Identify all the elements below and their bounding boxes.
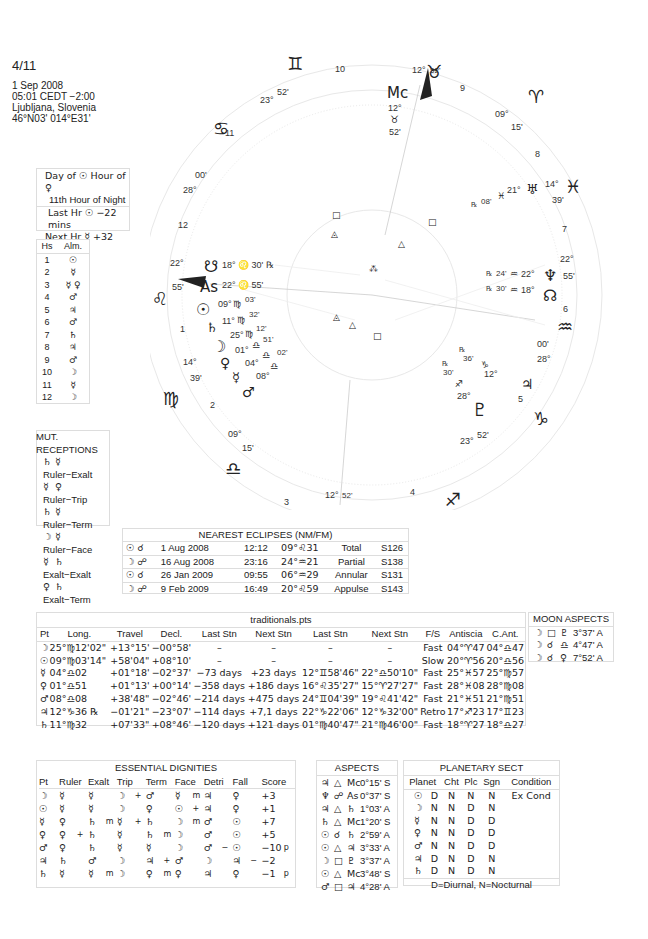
cell: +5 (261, 828, 283, 841)
cell: D (462, 802, 480, 815)
cell: N (441, 789, 461, 802)
eclipse-type-icons: ☽ ☍ (123, 555, 158, 569)
jupiter-glyph-icon: ♃ (521, 376, 534, 392)
almuten-row: 3☿ ♀ (37, 279, 89, 292)
uranus-glyph-icon: ♅ (526, 181, 539, 197)
col-header-house: Hs (37, 240, 57, 253)
cell (284, 802, 295, 815)
cell: +121 days (246, 719, 300, 732)
cell: −02°37' (151, 667, 193, 680)
aspect-row: ♆☍As0°37' S (317, 789, 397, 802)
c7-min: 55' (563, 271, 575, 281)
col-header: Fall (233, 775, 262, 789)
house-3-number: 3 (284, 497, 289, 507)
traditionals-title: traditionals.pts (37, 613, 525, 628)
jupiter-retro: ℞ (459, 346, 465, 353)
almuten-table: Hs Alm. 1☉2☿3☿ ♀4♂5♃6♂7♄8♃9♂10☽11☿12☽ (36, 239, 90, 404)
almuten-row: 6♂ (37, 316, 89, 329)
aspect-orb: 4°47' A (573, 639, 603, 650)
eclipse-date: 26 Jan 2009 (158, 569, 239, 583)
saturn-glyph-icon: ♄ (206, 320, 218, 335)
chart-coords: 46°N03' 014°E31' (12, 113, 96, 124)
aspect-square-marker-icon: □ (428, 217, 437, 227)
aspect-orb: 1°03' A (360, 803, 390, 814)
cell: D (462, 827, 480, 840)
almuten-row: 7♄ (37, 329, 89, 342)
aspect-glyph: △ (334, 841, 347, 854)
aspect-orb: 0°37' S (360, 790, 390, 801)
north-node-retro: ℞ (486, 285, 492, 292)
sect-row: ♃DNDN (404, 853, 559, 866)
uranus-min: 08' (481, 197, 492, 206)
aquarius-glyph-icon: ♒ (557, 316, 573, 337)
cell (503, 865, 559, 878)
reception-row: ☿♄Exalt−Exalt (37, 556, 109, 581)
virgo-glyph-icon: ♍ (163, 388, 179, 409)
dignity-row: ☉☿☿☽♀☉+♃♀+1 (39, 802, 295, 815)
aspect-square-marker-icon: □ (373, 331, 382, 341)
c8-deg: 14° (545, 179, 559, 189)
col-header: Pt (37, 628, 50, 641)
south-node-pos: 18° ♌ 30' ℞ (222, 259, 274, 270)
eclipse-type-icons: ☉ ☌ (123, 542, 158, 555)
c2-min: 39' (190, 373, 202, 383)
house-number: 1 (37, 253, 57, 266)
planet-b: ♄ (55, 556, 67, 569)
cell (77, 841, 88, 854)
cell: ♀ (39, 828, 59, 841)
house-number: 2 (37, 266, 57, 279)
cell: ♄ (37, 719, 50, 732)
col-header-almuten: Alm. (57, 240, 89, 253)
cell (250, 867, 261, 880)
col-header: Pt (39, 775, 59, 789)
chart-title: 4/11 (12, 58, 36, 73)
cell: 25°♓57 (446, 667, 485, 680)
cell: −01'21" (109, 706, 151, 719)
sect-legend: D=Diurnal, N=Nocturnal (404, 878, 559, 891)
c6-min: 00' (537, 339, 549, 349)
cell: ♃ (146, 854, 164, 867)
chart-info: 1 Sep 2008 05:01 CEDT −2:00 Ljubljana, S… (12, 80, 96, 124)
cell: 15°♈27'27" (360, 680, 419, 693)
mc-inner-sign: ♉ (390, 114, 399, 125)
cell (193, 854, 204, 867)
eclipse-row: ☉ ☌26 Jan 200909:5506°♒29AnnularS131 (123, 569, 408, 583)
col-header: Last Stn (301, 628, 360, 641)
c7-deg: 22° (560, 254, 574, 264)
cell: D (480, 827, 503, 840)
leo-glyph-icon: ♌ (152, 288, 168, 309)
cell (135, 802, 146, 815)
cell: Retro (420, 706, 447, 719)
hour-of-night: 11th Hour of Night (37, 194, 129, 207)
cell: ♂ (204, 828, 222, 841)
house-number: 11 (37, 379, 57, 392)
aspect-glyph: ☉ (321, 828, 334, 841)
cell (250, 815, 261, 828)
cell: 17°♐23 (446, 706, 485, 719)
dignity-row: ♃♄♂☽♃+♂☽♃−−2 (39, 854, 295, 867)
cell: ♀ (37, 680, 50, 693)
planet-a: ♄ (43, 506, 55, 519)
cell: ☽ (175, 815, 193, 828)
cell (221, 789, 232, 803)
cell: Fast (420, 641, 447, 654)
sect-row: ☉DNNNEx Cond (404, 789, 559, 802)
aspect-glyph: △ (334, 867, 347, 880)
mars-deg: 08° (256, 371, 270, 381)
pluto-retro: ℞ (442, 360, 448, 367)
cell: ♂ (88, 854, 106, 867)
aspect-glyph: ♄ (347, 828, 360, 841)
cell (77, 815, 88, 828)
cell: ♂ (204, 815, 222, 828)
cell: 09°♍03'14" (50, 655, 109, 668)
almuten-planet: ☿ (57, 266, 89, 279)
cell: 21°♍46'00" (360, 719, 419, 732)
planet-row: ☉09°♍03'14"+58'04"+08°10'––––Slow20°♈562… (37, 655, 525, 668)
aspect-glyph: ☉ (321, 841, 334, 854)
eclipse-row: ☽ ☍16 Aug 200823:1624°♒21PartialS138 (123, 555, 408, 569)
dignity-row: ☿♀♄m☿+♄☽m♂☉+7 (39, 815, 295, 828)
aspect-orb: 3°37' A (573, 627, 603, 638)
cell: ♄ (88, 815, 106, 828)
cell: m (164, 828, 175, 841)
reception-row: ♄☿Ruler−Term (37, 506, 109, 531)
